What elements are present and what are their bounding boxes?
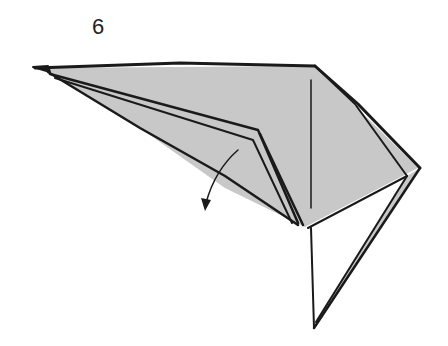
leg-vertical [311, 228, 314, 328]
fold-arrow-head-icon [201, 198, 211, 211]
origami-diagram [0, 0, 448, 346]
